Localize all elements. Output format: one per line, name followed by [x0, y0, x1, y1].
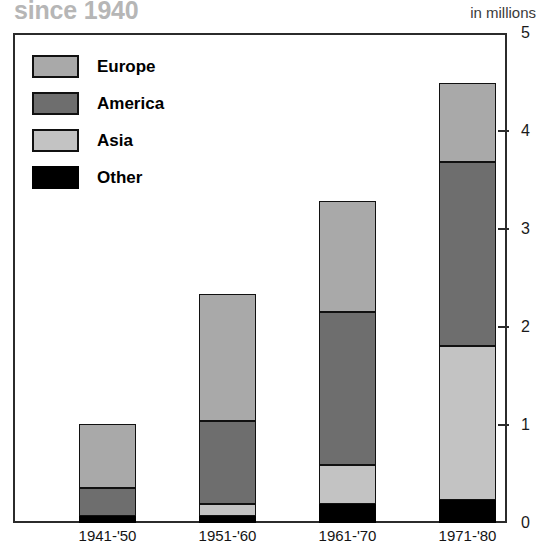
- page-title: since 1940: [14, 0, 139, 25]
- y-tick-mark: [498, 424, 509, 426]
- bar-segment-america[interactable]: [319, 312, 376, 465]
- legend-item-america[interactable]: America: [32, 85, 212, 122]
- legend-label-america: America: [97, 94, 164, 114]
- y-tick-label: 3: [521, 219, 530, 239]
- bar-segment-asia[interactable]: [439, 346, 496, 501]
- y-tick-label: 5: [521, 23, 530, 43]
- y-tick-label: 2: [521, 317, 530, 337]
- bar-segment-america[interactable]: [199, 421, 256, 504]
- y-tick-mark: [498, 228, 509, 230]
- bar-segment-other[interactable]: [319, 504, 376, 523]
- y-axis: 012345: [507, 33, 544, 523]
- bar-segment-europe[interactable]: [439, 83, 496, 162]
- bar-segment-europe[interactable]: [319, 201, 376, 313]
- y-tick-mark: [498, 130, 509, 132]
- legend-label-asia: Asia: [97, 131, 133, 151]
- chart-legend: EuropeAmericaAsiaOther: [32, 48, 212, 196]
- bar-1[interactable]: [79, 424, 136, 523]
- x-axis-label-4: 1971-'80: [439, 527, 497, 544]
- bar-segment-other[interactable]: [79, 516, 136, 523]
- bar-segment-europe[interactable]: [79, 424, 136, 488]
- legend-swatch-asia: [32, 129, 79, 152]
- bar-segment-other[interactable]: [439, 500, 496, 523]
- y-tick-mark: [498, 326, 509, 328]
- legend-swatch-other: [32, 166, 79, 189]
- bar-segment-asia[interactable]: [319, 465, 376, 504]
- bar-segment-america[interactable]: [439, 162, 496, 345]
- x-axis-labels: 1941-'501951-'601961-'701971-'80: [13, 527, 507, 549]
- bar-segment-america[interactable]: [79, 488, 136, 516]
- y-tick-label: 1: [521, 415, 530, 435]
- x-axis-label-1: 1941-'50: [79, 527, 137, 544]
- y-tick-label: 4: [521, 121, 530, 141]
- bar-segment-europe[interactable]: [199, 294, 256, 421]
- x-axis-label-2: 1951-'60: [199, 527, 257, 544]
- bar-3[interactable]: [319, 201, 376, 523]
- legend-label-europe: Europe: [97, 57, 156, 77]
- legend-item-other[interactable]: Other: [32, 159, 212, 196]
- bar-4[interactable]: [439, 83, 496, 523]
- units-label: in millions: [470, 4, 536, 21]
- bar-segment-asia[interactable]: [199, 504, 256, 516]
- legend-item-europe[interactable]: Europe: [32, 48, 212, 85]
- legend-swatch-america: [32, 92, 79, 115]
- legend-item-asia[interactable]: Asia: [32, 122, 212, 159]
- bar-2[interactable]: [199, 294, 256, 523]
- x-axis-label-3: 1961-'70: [319, 527, 377, 544]
- y-tick-label: 0: [521, 513, 530, 533]
- bar-segment-other[interactable]: [199, 516, 256, 523]
- legend-label-other: Other: [97, 168, 142, 188]
- legend-swatch-europe: [32, 55, 79, 78]
